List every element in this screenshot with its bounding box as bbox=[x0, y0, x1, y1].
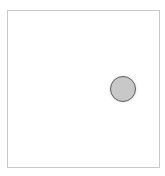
drawing-canvas[interactable] bbox=[7, 10, 160, 168]
gray-circle[interactable] bbox=[110, 76, 136, 102]
